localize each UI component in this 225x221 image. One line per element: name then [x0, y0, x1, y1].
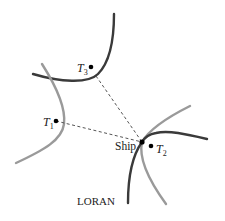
- dashed-line-t3-ship: [96, 76, 142, 142]
- dashed-line-t1-ship: [56, 121, 142, 142]
- label-t1: T1: [43, 115, 54, 131]
- diagram-title: LORAN: [77, 195, 115, 207]
- point-t1: [54, 119, 59, 124]
- label-t2: T2: [156, 142, 167, 158]
- hyperbola-light-right-upper: [142, 106, 190, 142]
- label-ship: Ship: [115, 140, 136, 153]
- loran-diagram: T3 T1 T2 Ship LORAN: [0, 0, 225, 221]
- hyperbola-dark-right-upper: [142, 132, 207, 142]
- label-t3: T3: [77, 61, 88, 77]
- point-t3: [89, 65, 94, 70]
- point-ship: [139, 139, 144, 144]
- point-t2: [149, 144, 154, 149]
